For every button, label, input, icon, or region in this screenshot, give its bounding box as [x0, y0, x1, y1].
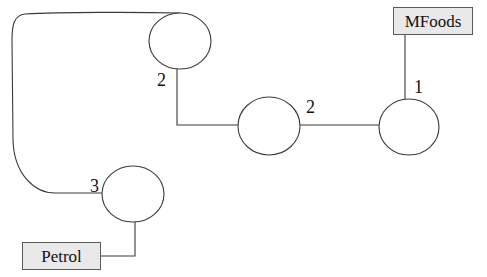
node-top: [149, 13, 211, 69]
node-middle: [238, 97, 300, 155]
terminal-mfoods-label: MFoods: [405, 13, 462, 30]
network-diagram: MFoods Petrol 1 2 2 3: [0, 0, 487, 277]
node-bottom-left: [102, 166, 164, 222]
terminal-petrol: Petrol: [22, 242, 101, 270]
edge-label-mfoods-right: 1: [414, 78, 423, 96]
edge-top-to-middle: [177, 69, 238, 125]
node-right: [379, 99, 439, 155]
edge-label-right-middle: 2: [306, 98, 315, 116]
edge-label-middle-top: 2: [157, 71, 166, 89]
terminal-petrol-label: Petrol: [41, 248, 82, 265]
terminal-mfoods: MFoods: [393, 7, 473, 35]
edge-label-top-bottom-left: 3: [90, 177, 99, 195]
diagram-graphics: [0, 0, 487, 277]
edge-bottom-left-to-petrol: [101, 222, 135, 256]
